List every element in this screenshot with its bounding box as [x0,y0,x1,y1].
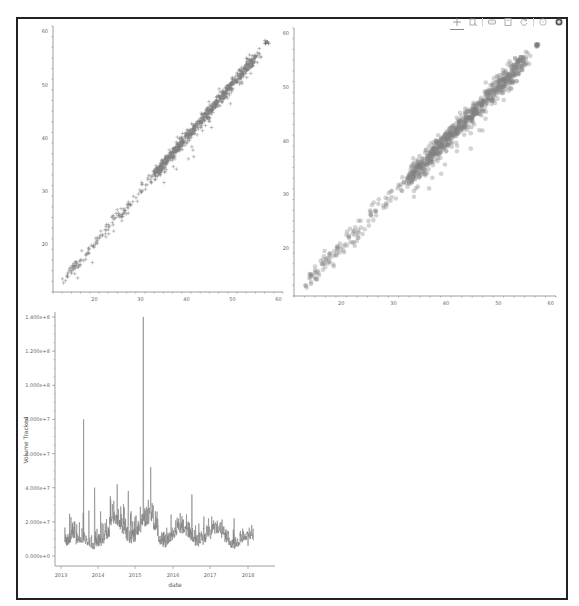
volume-line [65,317,254,549]
x-tick-label: 2013 [55,572,68,578]
x-tick-label: 2014 [92,572,105,578]
axis-lines [55,312,275,566]
x-tick-label: 2018 [242,572,255,578]
x-tick-label: 2017 [204,572,217,578]
x-axis-title: date [168,581,182,588]
y-tick-label: 1.200e+8 [25,348,50,354]
y-tick-label: 1.400e+8 [25,314,50,320]
y-tick-label: 4.000e+7 [25,485,50,491]
y-axis-title: Volume Tracked [22,416,29,463]
x-tick-label: 2016 [167,572,180,578]
x-tick-label: 2015 [129,572,142,578]
y-tick-label: 0.000e+0 [25,553,50,559]
y-tick-label: 2.000e+7 [25,519,50,525]
y-tick-label: 1.000e+8 [25,382,50,388]
volume-line-chart[interactable]: 0.000e+02.000e+74.000e+76.000e+78.000e+7… [0,0,579,606]
